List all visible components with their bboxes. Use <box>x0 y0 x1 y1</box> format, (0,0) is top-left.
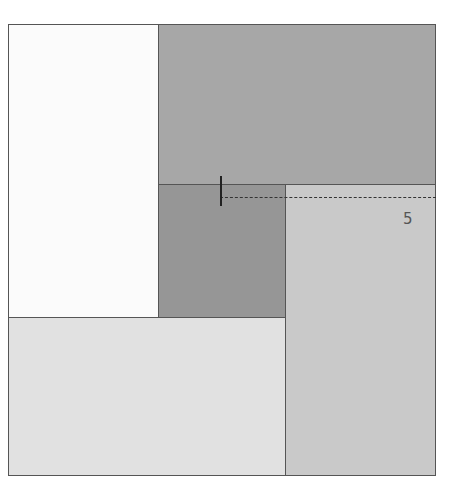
region-center <box>158 184 286 318</box>
region-bottom-left <box>8 317 286 476</box>
marker-tick <box>220 176 222 206</box>
dashed-guide-line <box>220 197 436 198</box>
region-top-left <box>8 24 159 318</box>
region-right-column <box>285 184 436 476</box>
measurement-label: 5 <box>403 212 413 227</box>
region-top-right <box>158 24 436 185</box>
